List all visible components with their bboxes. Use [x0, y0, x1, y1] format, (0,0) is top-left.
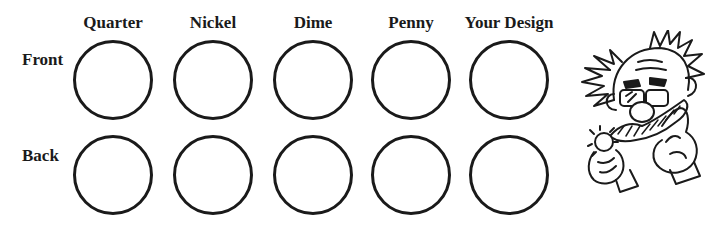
your-design-back-circle — [469, 135, 549, 215]
penny-back-circle — [371, 135, 451, 215]
your-design-front-circle — [469, 40, 549, 120]
quarter-front-circle — [73, 40, 153, 120]
dime-front-circle — [273, 40, 353, 120]
quarter-back-circle — [73, 135, 153, 215]
cartoon-scientist-holding-coin-icon — [580, 30, 715, 199]
dime-back-circle — [273, 135, 353, 215]
penny-front-circle — [371, 40, 451, 120]
column-label-your-design: Your Design — [449, 13, 569, 33]
nickel-back-circle — [173, 135, 253, 215]
row-label-front: Front — [22, 50, 63, 70]
row-label-back: Back — [22, 146, 59, 166]
nickel-front-circle — [173, 40, 253, 120]
